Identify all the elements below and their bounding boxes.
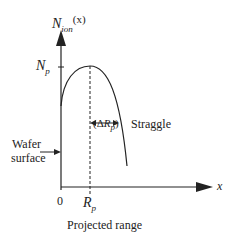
x-axis-arrowhead-icon — [196, 182, 213, 192]
straggle-symbol: (ΔRp) — [93, 118, 119, 132]
straggle-label: Straggle — [131, 118, 171, 130]
origin-label: 0 — [57, 195, 63, 207]
surface-label: surface — [11, 152, 46, 164]
projected-range-symbol: Rp — [83, 196, 96, 213]
peak-concentration-label: Np — [36, 59, 50, 76]
wafer-surface-arrowhead-icon — [54, 149, 61, 155]
y-axis-label: Nion(x) — [52, 14, 86, 34]
ion-implantation-profile-diagram: Nion(x) Np (ΔRp) Straggle Wafer surface … — [0, 0, 234, 239]
wafer-label: Wafer — [12, 138, 41, 150]
concentration-profile-curve — [61, 66, 127, 166]
x-axis-label: x — [217, 180, 222, 192]
projected-range-label: Projected range — [67, 219, 142, 231]
